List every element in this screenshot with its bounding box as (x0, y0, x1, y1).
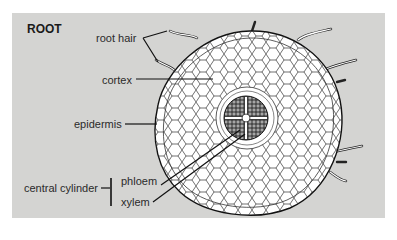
diagram-title: ROOT (27, 22, 62, 36)
label-central-cylinder: central cylinder (24, 182, 98, 194)
label-xylem: xylem (121, 196, 150, 208)
label-cortex: cortex (102, 74, 132, 86)
label-root-hair: root hair (96, 32, 136, 44)
label-epidermis: epidermis (74, 118, 122, 130)
label-phloem: phloem (121, 175, 157, 187)
